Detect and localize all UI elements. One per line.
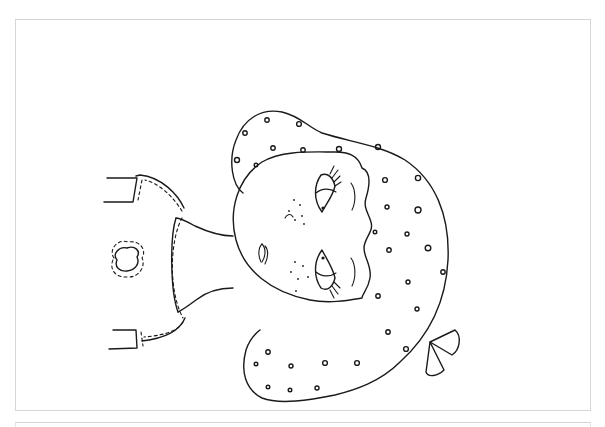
eyelashes-upper xyxy=(330,166,341,186)
mouth xyxy=(259,244,268,264)
eye-lower xyxy=(316,250,341,298)
eye-upper xyxy=(316,166,342,212)
neck-upper xyxy=(176,218,233,236)
hair-dots xyxy=(235,118,446,392)
nose xyxy=(285,214,293,218)
freckles xyxy=(288,199,309,292)
hair-bow xyxy=(426,330,459,376)
neck-lower xyxy=(178,288,233,312)
eyelashes-lower xyxy=(330,282,340,298)
coloring-drawing xyxy=(0,0,605,427)
heart-patch xyxy=(112,241,144,277)
pupil-upper xyxy=(321,206,324,209)
shirt xyxy=(136,175,185,341)
face xyxy=(233,152,371,302)
eyebrow-upper xyxy=(351,183,355,210)
eyebrow-lower xyxy=(351,258,355,286)
pupil-lower xyxy=(321,256,324,259)
